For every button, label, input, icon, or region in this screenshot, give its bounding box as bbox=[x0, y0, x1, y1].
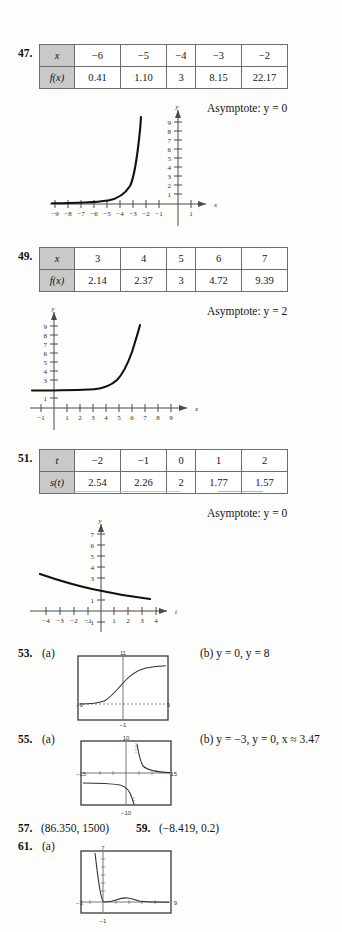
svg-text:5: 5 bbox=[168, 155, 172, 163]
cell-x-4: 7 bbox=[242, 248, 288, 270]
cell-fx-0: 0.41 bbox=[75, 67, 121, 89]
svg-text:3: 3 bbox=[91, 414, 95, 422]
problem-number-61: 61. bbox=[18, 840, 32, 852]
screen-xmin-61: −3 bbox=[76, 900, 84, 906]
cell-fx-2: 3 bbox=[167, 67, 196, 89]
screen-xmax-53: 9 bbox=[167, 702, 171, 708]
cell-fx-4: 22.17 bbox=[242, 67, 288, 89]
svg-text:1: 1 bbox=[44, 395, 48, 403]
svg-text:4: 4 bbox=[154, 617, 158, 625]
svg-text:9: 9 bbox=[169, 414, 173, 422]
svg-text:4: 4 bbox=[44, 368, 48, 376]
svg-text:−1: −1 bbox=[155, 210, 163, 218]
svg-text:5: 5 bbox=[117, 414, 121, 422]
svg-text:7: 7 bbox=[91, 531, 95, 539]
svg-text:y: y bbox=[174, 104, 179, 111]
table-row: x 3 4 5 6 7 bbox=[40, 248, 288, 270]
row-label-x: x bbox=[40, 45, 75, 67]
problem-number-51: 51. bbox=[18, 452, 32, 464]
cell-t-0: −2 bbox=[75, 450, 121, 472]
svg-text:−3: −3 bbox=[129, 210, 137, 218]
svg-text:−1: −1 bbox=[37, 414, 45, 422]
svg-text:6: 6 bbox=[91, 542, 95, 550]
svg-text:−4: −4 bbox=[42, 617, 50, 625]
svg-text:2: 2 bbox=[168, 182, 172, 190]
problem-number-49: 49. bbox=[18, 250, 32, 262]
svg-text:4: 4 bbox=[91, 564, 95, 572]
svg-text:1: 1 bbox=[91, 597, 95, 605]
answer-59: (−8.419, 0.2) bbox=[159, 822, 219, 834]
calculator-screen-53: 11 −1 −9 9 bbox=[74, 650, 172, 728]
svg-text:7: 7 bbox=[143, 414, 147, 422]
data-table-47: x −6 −5 −4 −3 −2 f(x) 0.41 1.10 3 8.15 2… bbox=[39, 44, 288, 89]
svg-text:x: x bbox=[194, 405, 199, 413]
part-label-53a: (a) bbox=[42, 647, 55, 659]
cell-x-3: −3 bbox=[196, 45, 242, 67]
calculator-screen-55: 10 −10 −15 15 bbox=[74, 735, 178, 819]
svg-text:1: 1 bbox=[112, 617, 116, 625]
asymptote-note-49: Asymptote: y = 2 bbox=[207, 305, 287, 317]
cell-t-1: −1 bbox=[121, 450, 167, 472]
table-row: t −2 −1 0 1 2 bbox=[40, 450, 288, 472]
row-label-fx: f(x) bbox=[40, 270, 75, 292]
svg-text:5: 5 bbox=[91, 553, 95, 561]
svg-text:1: 1 bbox=[168, 191, 172, 199]
calculator-screen-61: 7 −1 −3 9 bbox=[74, 845, 178, 925]
svg-text:9: 9 bbox=[44, 323, 48, 331]
screen-ymax-53: 11 bbox=[120, 650, 127, 656]
svg-text:y: y bbox=[50, 306, 55, 313]
screen-xmax-55: 15 bbox=[170, 771, 177, 777]
problem-number-59: 59. bbox=[136, 822, 150, 834]
table-row: f(x) 0.41 1.10 3 8.15 22.17 bbox=[40, 67, 288, 89]
scan-tint-purple bbox=[218, 491, 263, 492]
row-label-fx: f(x) bbox=[40, 67, 75, 89]
cell-t-2: 0 bbox=[167, 450, 196, 472]
cell-fx-3: 8.15 bbox=[196, 67, 242, 89]
screen-ymax-55: 10 bbox=[123, 735, 130, 741]
cell-x-2: −4 bbox=[167, 45, 196, 67]
problem-number-57: 57. bbox=[18, 822, 32, 834]
svg-text:x: x bbox=[213, 201, 218, 209]
screen-ymin-55: −10 bbox=[121, 810, 132, 816]
svg-text:−8: −8 bbox=[64, 210, 72, 218]
svg-text:−2: −2 bbox=[70, 617, 78, 625]
svg-text:3: 3 bbox=[140, 617, 144, 625]
cell-x-2: 5 bbox=[167, 248, 196, 270]
cell-fx-4: 9.39 bbox=[242, 270, 288, 292]
svg-text:7: 7 bbox=[44, 341, 48, 349]
screen-xmax-61: 9 bbox=[174, 900, 178, 906]
svg-text:4: 4 bbox=[168, 164, 172, 172]
row-label-t: t bbox=[40, 450, 75, 472]
cell-x-1: −5 bbox=[121, 45, 167, 67]
svg-text:4: 4 bbox=[104, 414, 108, 422]
svg-text:3: 3 bbox=[91, 575, 95, 583]
svg-text:−7: −7 bbox=[77, 210, 85, 218]
screen-ymin-53: −1 bbox=[120, 722, 128, 728]
asymptote-note-51: Asymptote: y = 0 bbox=[207, 507, 287, 519]
problem-number-53: 53. bbox=[18, 647, 32, 659]
problem-number-55: 55. bbox=[18, 733, 32, 745]
svg-text:6: 6 bbox=[44, 350, 48, 358]
svg-text:7: 7 bbox=[168, 137, 172, 145]
answer-55b: (b) y = −3, y = 0, x ≈ 3.47 bbox=[200, 733, 320, 745]
screen-ymax-61: 7 bbox=[101, 845, 105, 851]
scan-tint-green bbox=[73, 491, 180, 492]
answer-53b: (b) y = 0, y = 8 bbox=[200, 647, 270, 659]
svg-text:1: 1 bbox=[189, 210, 193, 218]
svg-text:−4: −4 bbox=[116, 210, 124, 218]
graph-49: −1 1 2 3 4 5 6 7 8 9 1 3 4 5 6 7 8 9 bbox=[22, 306, 212, 434]
cell-fx-1: 1.10 bbox=[121, 67, 167, 89]
screen-ymin-61: −1 bbox=[100, 918, 108, 924]
svg-text:3: 3 bbox=[44, 377, 48, 385]
data-table-51: t −2 −1 0 1 2 s(t) 2.54 2.26 2 1.77 1.57 bbox=[39, 449, 288, 494]
table-row: f(x) 2.14 2.37 3 4.72 9.39 bbox=[40, 270, 288, 292]
row-label-x: x bbox=[40, 248, 75, 270]
cell-fx-0: 2.14 bbox=[75, 270, 121, 292]
svg-text:−2: −2 bbox=[142, 210, 150, 218]
table-row: x −6 −5 −4 −3 −2 bbox=[40, 45, 288, 67]
cell-t-4: 2 bbox=[242, 450, 288, 472]
screen-xmin-55: −15 bbox=[76, 771, 87, 777]
svg-text:−6: −6 bbox=[90, 210, 98, 218]
cell-t-3: 1 bbox=[196, 450, 242, 472]
svg-text:2: 2 bbox=[126, 617, 130, 625]
